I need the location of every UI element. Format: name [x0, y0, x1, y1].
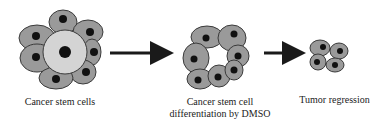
stage-3-label: Tumor regression — [285, 94, 384, 106]
regressed-tumor-cluster — [310, 40, 348, 72]
stage-1-label: Cancer stem cells — [10, 96, 110, 108]
stage-2-label: Cancer stem cell differentiation by DMSO — [160, 96, 280, 120]
